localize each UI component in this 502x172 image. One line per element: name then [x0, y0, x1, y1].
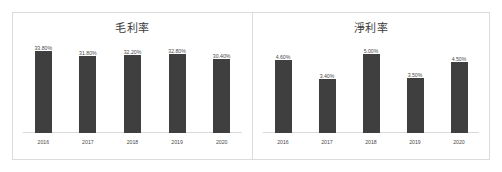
x-axis-labels-gross-margin: 2016 2017 2018 2019 2020: [21, 135, 244, 149]
bar-slot: 4.60%: [261, 41, 305, 133]
x-axis-tick-label: 2020: [437, 139, 481, 145]
bar-value-label: 30.40%: [199, 53, 244, 59]
bar-slot: 33.80%: [21, 41, 66, 133]
bar-rect[interactable]: [319, 79, 336, 133]
x-axis-tick-label: 2017: [66, 139, 111, 145]
bar-value-label: 31.80%: [66, 50, 111, 56]
bar-rect[interactable]: [451, 62, 468, 133]
x-axis-tick-label: 2019: [393, 139, 437, 145]
bar-rect[interactable]: [79, 56, 96, 133]
bar-value-label: 3.40%: [305, 73, 349, 79]
x-axis-tick-label: 2020: [199, 139, 244, 145]
x-axis-tick-label: 2019: [155, 139, 200, 145]
bar-rect[interactable]: [275, 60, 292, 133]
bar-slot: 3.50%: [393, 41, 437, 133]
chart-title-net-margin: 淨利率: [253, 22, 489, 35]
plot-area-gross-margin: 33.80% 31.80% 32.20% 32.80% 30.40%: [21, 41, 244, 151]
x-axis-tick-label: 2017: [305, 139, 349, 145]
bar-value-label: 3.50%: [393, 72, 437, 78]
chart-title-gross-margin: 毛利率: [13, 22, 252, 35]
bar-rect[interactable]: [363, 54, 380, 133]
bar-slot: 4.50%: [437, 41, 481, 133]
bar-value-label: 32.80%: [155, 48, 200, 54]
charts-canvas: 毛利率 33.80% 31.80% 32.20% 32.80%: [0, 0, 502, 172]
bar-slot: 32.20%: [110, 41, 155, 133]
x-axis-tick-label: 2018: [110, 139, 155, 145]
bar-value-label: 5.00%: [349, 48, 393, 54]
bar-rect[interactable]: [213, 59, 230, 133]
bar-value-label: 32.20%: [110, 49, 155, 55]
bar-rect[interactable]: [407, 78, 424, 133]
chart-panel-gross-margin: 毛利率 33.80% 31.80% 32.20% 32.80%: [12, 12, 253, 160]
x-axis-tick-label: 2016: [261, 139, 305, 145]
bar-slot: 30.40%: [199, 41, 244, 133]
chart-panel-net-margin: 淨利率 4.60% 3.40% 5.00% 3.50%: [252, 12, 490, 160]
bar-slot: 32.80%: [155, 41, 200, 133]
bar-group-gross-margin: 33.80% 31.80% 32.20% 32.80% 30.40%: [21, 41, 244, 133]
bar-value-label: 33.80%: [21, 45, 66, 51]
bar-slot: 5.00%: [349, 41, 393, 133]
bar-rect[interactable]: [169, 54, 186, 133]
plot-area-net-margin: 4.60% 3.40% 5.00% 3.50% 4.50%: [261, 41, 481, 151]
bar-group-net-margin: 4.60% 3.40% 5.00% 3.50% 4.50%: [261, 41, 481, 133]
bar-slot: 31.80%: [66, 41, 111, 133]
bar-value-label: 4.50%: [437, 56, 481, 62]
bar-slot: 3.40%: [305, 41, 349, 133]
x-axis-tick-label: 2016: [21, 139, 66, 145]
x-axis-tick-label: 2018: [349, 139, 393, 145]
bar-rect[interactable]: [35, 51, 52, 133]
bar-value-label: 4.60%: [261, 54, 305, 60]
bar-rect[interactable]: [124, 55, 141, 133]
x-axis-labels-net-margin: 2016 2017 2018 2019 2020: [261, 135, 481, 149]
